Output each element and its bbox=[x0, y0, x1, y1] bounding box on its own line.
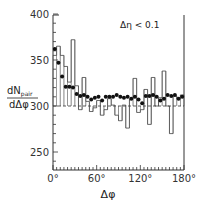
x-tick-label: 180° bbox=[172, 173, 196, 184]
data-point bbox=[89, 98, 93, 102]
data-point bbox=[144, 94, 148, 98]
data-point bbox=[60, 75, 64, 79]
data-point bbox=[107, 95, 111, 99]
data-point bbox=[53, 47, 57, 51]
data-point bbox=[147, 94, 151, 98]
data-point bbox=[166, 93, 170, 97]
data-point bbox=[93, 96, 97, 100]
ylabel-numerator: dN bbox=[7, 85, 21, 96]
data-point bbox=[155, 95, 159, 99]
data-point bbox=[180, 95, 184, 99]
x-tick-label: 0° bbox=[47, 173, 58, 184]
data-point bbox=[126, 95, 130, 99]
y-tick-label: 300 bbox=[30, 101, 49, 112]
data-point bbox=[64, 85, 68, 89]
data-point bbox=[82, 93, 86, 97]
data-point bbox=[96, 95, 100, 99]
data-point bbox=[111, 95, 115, 99]
data-point bbox=[137, 98, 141, 102]
chart: 2503003504000°60°120°180° Δη < 0.1 dNpai… bbox=[0, 0, 205, 205]
data-point bbox=[129, 97, 133, 101]
data-point bbox=[133, 95, 137, 99]
data-point bbox=[169, 94, 173, 98]
data-point bbox=[67, 85, 71, 89]
data-point bbox=[100, 98, 104, 102]
data-point bbox=[71, 86, 75, 90]
x-tick-label: 60° bbox=[88, 173, 106, 184]
y-tick-label: 350 bbox=[30, 55, 49, 66]
ylabel-sub: pair bbox=[21, 90, 33, 98]
x-tick-label: 120° bbox=[128, 173, 152, 184]
data-point bbox=[173, 93, 177, 97]
data-point bbox=[162, 97, 166, 101]
ylabel-denominator: dΔφ bbox=[9, 99, 29, 110]
data-point bbox=[75, 92, 79, 96]
data-point bbox=[151, 93, 155, 97]
data-point bbox=[56, 61, 60, 65]
annotation: Δη < 0.1 bbox=[120, 20, 159, 30]
data-point bbox=[78, 94, 82, 98]
y-tick-label: 400 bbox=[30, 9, 49, 20]
data-point bbox=[86, 95, 90, 99]
points-series bbox=[53, 47, 184, 105]
svg-text:dNpair: dNpair bbox=[7, 85, 33, 98]
data-point bbox=[115, 93, 119, 97]
y-tick-label: 250 bbox=[30, 147, 49, 158]
data-point bbox=[158, 98, 162, 102]
data-point bbox=[140, 101, 144, 105]
data-point bbox=[118, 95, 122, 99]
x-axis-label: Δφ bbox=[101, 188, 116, 201]
data-point bbox=[104, 95, 108, 99]
data-point bbox=[122, 96, 126, 100]
data-point bbox=[177, 97, 181, 101]
